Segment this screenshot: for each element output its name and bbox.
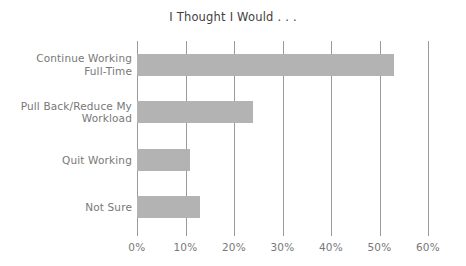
y-axis-label-line: Continue Working [2, 52, 132, 65]
bar [137, 54, 394, 76]
y-axis-labels: Continue WorkingFull-TimePull Back/Reduc… [0, 41, 132, 231]
x-axis-tick [380, 231, 381, 236]
bar [137, 101, 253, 123]
x-axis-tick [331, 231, 332, 236]
x-axis-tick [283, 231, 284, 236]
x-gridline [428, 41, 429, 231]
bar [137, 196, 200, 218]
y-axis-label: Pull Back/Reduce MyWorkload [2, 100, 132, 125]
y-axis-label-line: Not Sure [2, 201, 132, 214]
y-axis-label-line: Full-Time [2, 65, 132, 78]
bar-chart: I Thought I Would . . . Continue Working… [0, 0, 466, 266]
y-axis-label: Not Sure [2, 201, 132, 214]
y-axis-label-line: Pull Back/Reduce My [2, 100, 132, 113]
x-axis-tick [234, 231, 235, 236]
x-axis-tick [137, 231, 138, 236]
chart-title: I Thought I Would . . . [0, 10, 466, 24]
y-axis-label-line: Quit Working [2, 154, 132, 167]
bar [137, 149, 190, 171]
x-axis-tick [186, 231, 187, 236]
y-axis-label: Continue WorkingFull-Time [2, 52, 132, 77]
y-axis-label: Quit Working [2, 154, 132, 167]
plot-area: 0%10%20%30%40%50%60% [137, 41, 428, 231]
x-axis-tick [428, 231, 429, 236]
x-axis-tick-label: 60% [398, 241, 458, 253]
y-axis-label-line: Workload [2, 112, 132, 125]
